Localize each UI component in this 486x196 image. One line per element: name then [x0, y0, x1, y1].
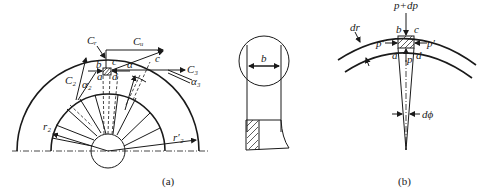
- label-r2prime: r′₂: [173, 131, 184, 143]
- figure-mid: b: [239, 36, 289, 150]
- label-p-prime-left: p′: [375, 37, 385, 49]
- label-b-b: b: [396, 23, 402, 35]
- label-a: a: [97, 70, 103, 82]
- label-alpha: α: [127, 58, 133, 70]
- label-c-b: c: [414, 23, 419, 35]
- label-dr: dr: [350, 21, 361, 33]
- diagram-canvas: Cᵣ Cᵤ c α C₃ α₃ C₂ α₂ b c a d r₂ r′₂ (a)…: [0, 0, 486, 196]
- label-Cr: Cᵣ: [87, 34, 97, 46]
- label-d-b: d: [416, 49, 422, 61]
- label-C2: C₂: [65, 74, 76, 86]
- figure-b: p+dp dr b c p′ p′ a p d dϕ (b): [338, 0, 476, 188]
- label-p: p: [406, 53, 413, 65]
- label-p-prime-right: p′: [426, 37, 436, 49]
- figure-a: Cᵣ Cᵤ c α C₃ α₃ C₂ α₂ b c a d r₂ r′₂ (a): [12, 34, 210, 188]
- caption-a: (a): [162, 175, 175, 188]
- label-C3: C₃: [187, 63, 198, 75]
- label-d: d: [112, 70, 118, 82]
- label-alpha3: α₃: [191, 75, 201, 87]
- label-b: b: [96, 58, 102, 70]
- label-alpha2: α₂: [82, 78, 92, 90]
- label-a-b: a: [392, 49, 398, 61]
- label-b-width: b: [261, 52, 267, 64]
- label-Cu: Cᵤ: [133, 35, 144, 47]
- hatch-pattern: [247, 120, 258, 149]
- label-p-dp: p+dp: [393, 0, 418, 11]
- label-dphi: dϕ: [422, 108, 434, 120]
- label-c-upper: c: [155, 52, 160, 64]
- label-r2: r₂: [43, 120, 51, 132]
- label-c: c: [112, 55, 117, 67]
- caption-b: (b): [398, 175, 411, 188]
